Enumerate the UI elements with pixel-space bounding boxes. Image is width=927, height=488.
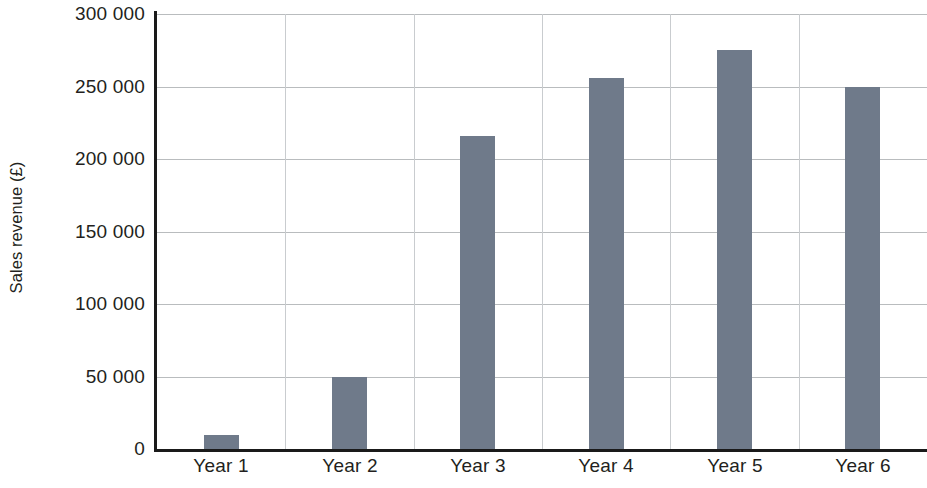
- gridline-vertical: [670, 14, 671, 449]
- y-axis-tick-labels: 050 000100 000150 000200 000250 000300 0…: [34, 0, 154, 488]
- y-axis-tick-label: 100 000: [75, 293, 145, 315]
- y-axis-line: [154, 11, 157, 452]
- bar: [460, 136, 495, 449]
- bar: [589, 78, 624, 449]
- x-axis-tick-label: Year 3: [450, 455, 505, 477]
- gridline-vertical: [414, 14, 415, 449]
- bar-chart: Sales revenue (£) 050 000100 000150 0002…: [0, 0, 927, 488]
- y-axis-tick-label: 150 000: [75, 221, 145, 243]
- y-axis-tick-label: 0: [134, 438, 145, 460]
- x-axis-tick-label: Year 5: [707, 455, 762, 477]
- x-axis-tick-label: Year 1: [193, 455, 248, 477]
- y-axis-tick-label: 200 000: [75, 148, 145, 170]
- gridline-vertical: [542, 14, 543, 449]
- y-axis-title-text: Sales revenue (£): [8, 162, 27, 294]
- gridline-vertical: [285, 14, 286, 449]
- y-axis-tick-label: 300 000: [75, 3, 145, 25]
- x-axis-tick-label: Year 2: [322, 455, 377, 477]
- x-axis-tick-label: Year 6: [835, 455, 890, 477]
- plot-area: [157, 14, 927, 449]
- bar: [204, 435, 239, 450]
- bar: [845, 87, 880, 450]
- gridline-vertical: [799, 14, 800, 449]
- x-axis-tick-label: Year 4: [578, 455, 633, 477]
- x-axis-tick-labels: Year 1Year 2Year 3Year 4Year 5Year 6: [157, 455, 927, 488]
- x-axis-line: [154, 449, 927, 452]
- y-axis-tick-label: 50 000: [86, 366, 145, 388]
- bar: [717, 50, 752, 449]
- y-axis-title: Sales revenue (£): [0, 0, 34, 455]
- y-axis-tick-label: 250 000: [75, 76, 145, 98]
- bar: [332, 377, 367, 450]
